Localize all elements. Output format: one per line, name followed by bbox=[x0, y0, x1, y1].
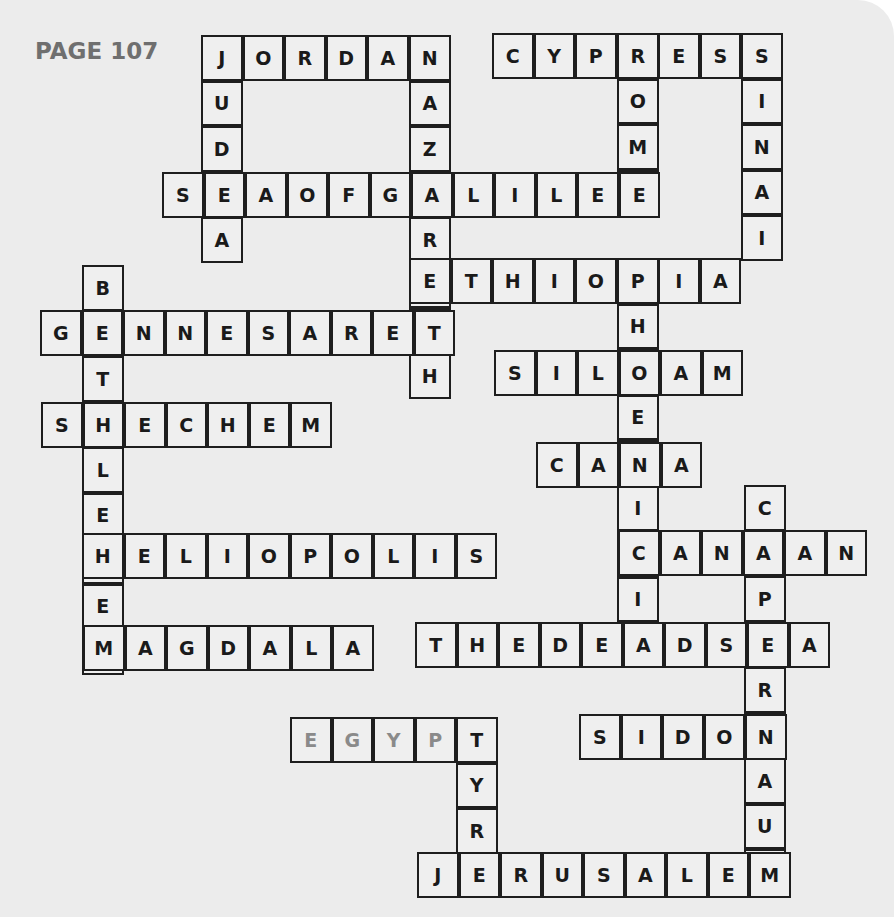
crossword-cell: C bbox=[166, 402, 208, 448]
crossword-cell: L bbox=[577, 350, 619, 396]
crossword-cell: D bbox=[208, 625, 250, 671]
crossword-cell: A bbox=[623, 622, 665, 668]
crossword-cell: I bbox=[536, 350, 578, 396]
crossword-cell: A bbox=[332, 625, 374, 671]
crossword-cell: A bbox=[289, 310, 331, 356]
crossword-cell: H bbox=[207, 402, 249, 448]
crossword-cell: P bbox=[617, 258, 659, 304]
crossword-cell: N bbox=[409, 35, 451, 81]
crossword-cell: E bbox=[617, 395, 659, 441]
crossword-cell: E bbox=[747, 622, 789, 668]
crossword-cell: T bbox=[456, 717, 498, 763]
crossword-cell: A bbox=[743, 530, 785, 576]
crossword-cell: A bbox=[661, 442, 703, 488]
crossword-cell: O bbox=[248, 533, 290, 579]
crossword-cell: S bbox=[41, 402, 83, 448]
crossword-cell: E bbox=[82, 493, 124, 539]
puzzle-page: PAGE 107 JORDANJUDEANAZARETHCYPRESSROMES… bbox=[0, 0, 894, 917]
crossword-cell: N bbox=[701, 530, 743, 576]
crossword-cell: P bbox=[744, 576, 786, 622]
crossword-cell: P bbox=[575, 33, 617, 79]
crossword-cell: A bbox=[741, 170, 783, 216]
crossword-cell: M bbox=[83, 625, 125, 671]
crossword-cell: N bbox=[826, 530, 868, 576]
crossword-cell: L bbox=[165, 533, 207, 579]
crossword-cell: H bbox=[457, 622, 499, 668]
crossword-cell: A bbox=[578, 442, 620, 488]
crossword-cell: G bbox=[332, 717, 374, 763]
crossword-cell: I bbox=[617, 577, 659, 623]
crossword-cell: I bbox=[741, 215, 783, 261]
crossword-cell: E bbox=[290, 717, 332, 763]
crossword-cell: I bbox=[494, 172, 536, 218]
crossword-cell: C bbox=[536, 442, 578, 488]
crossword-cell: S bbox=[579, 714, 621, 760]
crossword-cell: L bbox=[536, 172, 578, 218]
crossword-cell: A bbox=[409, 81, 451, 127]
crossword-cell: I bbox=[621, 714, 663, 760]
crossword-cell: Y bbox=[456, 763, 498, 809]
crossword-cell: D bbox=[201, 126, 243, 172]
crossword-cell: C bbox=[492, 33, 534, 79]
crossword-cell: A bbox=[789, 622, 831, 668]
crossword-cell: O bbox=[575, 258, 617, 304]
crossword-cell: N bbox=[745, 714, 787, 760]
crossword-cell: E bbox=[82, 310, 124, 356]
crossword-cell: R bbox=[284, 35, 326, 81]
crossword-cell: E bbox=[249, 402, 291, 448]
crossword-cell: O bbox=[331, 533, 373, 579]
crossword-cell: E bbox=[658, 33, 700, 79]
crossword-cell: E bbox=[577, 172, 619, 218]
page-number-label: PAGE 107 bbox=[35, 38, 158, 64]
crossword-cell: D bbox=[662, 714, 704, 760]
crossword-cell: H bbox=[409, 354, 451, 400]
crossword-cell: G bbox=[166, 625, 208, 671]
crossword-cell: A bbox=[411, 172, 453, 218]
crossword-cell: I bbox=[534, 258, 576, 304]
crossword-cell: A bbox=[249, 625, 291, 671]
crossword-cell: O bbox=[704, 714, 746, 760]
crossword-cell: L bbox=[373, 533, 415, 579]
crossword-cell: S bbox=[700, 33, 742, 79]
crossword-cell: L bbox=[666, 852, 708, 898]
crossword-cell: D bbox=[326, 35, 368, 81]
crossword-cell: N bbox=[619, 442, 661, 488]
crossword-cell: U bbox=[542, 852, 584, 898]
crossword-cell: A bbox=[245, 172, 287, 218]
crossword-cell: F bbox=[328, 172, 370, 218]
crossword-cell: I bbox=[658, 258, 700, 304]
crossword-cell: S bbox=[583, 852, 625, 898]
crossword-cell: S bbox=[248, 310, 290, 356]
crossword-cell: S bbox=[494, 350, 536, 396]
crossword-cell: O bbox=[287, 172, 329, 218]
crossword-cell: U bbox=[201, 81, 243, 127]
crossword-cell: T bbox=[415, 622, 457, 668]
crossword-cell: E bbox=[206, 310, 248, 356]
crossword-cell: M bbox=[290, 402, 332, 448]
crossword-cell: Y bbox=[373, 717, 415, 763]
crossword-cell: R bbox=[331, 310, 373, 356]
crossword-cell: G bbox=[40, 310, 82, 356]
crossword-cell: J bbox=[201, 35, 243, 81]
crossword-cell: I bbox=[207, 533, 249, 579]
crossword-cell: A bbox=[201, 217, 243, 263]
crossword-cell: R bbox=[744, 667, 786, 713]
crossword-cell: D bbox=[664, 622, 706, 668]
crossword-cell: R bbox=[409, 217, 451, 263]
crossword-cell: R bbox=[500, 852, 542, 898]
crossword-cell: S bbox=[741, 33, 783, 79]
crossword-cell: E bbox=[204, 172, 246, 218]
crossword-cell: I bbox=[741, 79, 783, 125]
crossword-cell: L bbox=[82, 447, 124, 493]
crossword-cell: E bbox=[372, 310, 414, 356]
crossword-cell: E bbox=[124, 533, 166, 579]
crossword-cell: S bbox=[706, 622, 748, 668]
crossword-cell: T bbox=[82, 356, 124, 402]
crossword-cell: Y bbox=[534, 33, 576, 79]
crossword-cell: S bbox=[162, 172, 204, 218]
crossword-cell: E bbox=[459, 852, 501, 898]
crossword-cell: A bbox=[367, 35, 409, 81]
crossword-cell: I bbox=[414, 533, 456, 579]
crossword-cell: O bbox=[619, 350, 661, 396]
crossword-cell: A bbox=[700, 258, 742, 304]
